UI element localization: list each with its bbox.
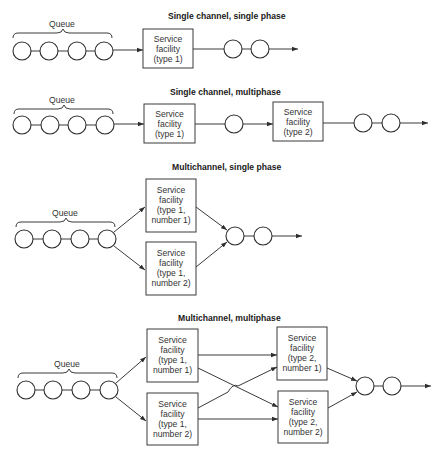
served-customer-circle xyxy=(383,377,401,395)
queueing-systems-diagram: Single channel, single phase Queue Servi… xyxy=(0,0,447,451)
arrow-to-channel-2 xyxy=(114,246,145,270)
svg-text:facility: facility xyxy=(161,409,186,419)
svg-text:(type 1,: (type 1, xyxy=(158,355,187,365)
customer-circle xyxy=(40,42,58,60)
svg-text:(type 1,: (type 1, xyxy=(157,205,186,215)
queue-brace xyxy=(14,105,113,114)
svg-text:Service: Service xyxy=(158,335,187,345)
diagram-multichannel-multiphase: Multichannel, multiphase Queue Service f… xyxy=(17,313,431,445)
svg-text:(type 1): (type 1) xyxy=(153,54,182,64)
svg-text:(type 1,: (type 1, xyxy=(157,268,186,278)
svg-text:(type 1,: (type 1, xyxy=(158,419,187,429)
customer-circle xyxy=(68,42,86,60)
diagram-multichannel-single-phase: Multichannel, single phase Queue Service… xyxy=(15,162,302,295)
customer-circle xyxy=(95,42,113,60)
service-facility-type1-number1-box: Service facility (type 1, number 1) xyxy=(147,329,198,382)
service-facility-type2-number1-box: Service facility (type 2, number 1) xyxy=(277,327,327,380)
queue-customers xyxy=(15,230,116,248)
svg-text:Service: Service xyxy=(157,248,186,258)
queue-label: Queue xyxy=(49,19,75,29)
svg-text:number 2): number 2) xyxy=(283,427,322,437)
svg-text:Service: Service xyxy=(158,399,187,409)
served-customer-circle xyxy=(382,114,400,132)
queue-brace xyxy=(16,218,115,227)
customer-circle xyxy=(98,230,116,248)
customer-circle xyxy=(41,116,59,134)
diagram-title: Multichannel, single phase xyxy=(172,162,282,172)
svg-text:number 2): number 2) xyxy=(153,429,192,439)
arrow-from-channel-2 xyxy=(196,242,227,267)
arrow-from-channel-1 xyxy=(196,207,227,230)
queue-customers xyxy=(13,42,113,60)
served-customer-circle xyxy=(251,40,269,58)
diagram-title: Single channel, multiphase xyxy=(170,87,281,97)
svg-text:number 1): number 1) xyxy=(151,215,190,225)
customer-circle xyxy=(96,116,114,134)
customer-circle xyxy=(17,381,35,399)
arrow-from-type2-number2 xyxy=(328,392,357,408)
diagram-single-channel-single-phase: Single channel, single phase Queue Servi… xyxy=(13,11,298,68)
svg-text:Service: Service xyxy=(157,185,186,195)
svg-text:(type 2,: (type 2, xyxy=(288,353,317,363)
served-customer-circle xyxy=(254,227,272,245)
customer-circle xyxy=(43,230,61,248)
svg-text:number 1): number 1) xyxy=(282,363,321,373)
queue-label: Queue xyxy=(54,359,80,369)
service-facility-number-2-box: Service facility (type 1, number 2) xyxy=(146,242,196,295)
customer-circle xyxy=(68,116,86,134)
arrow-to-type1-number2 xyxy=(116,397,146,421)
svg-text:Service: Service xyxy=(154,34,183,44)
diagram-title: Multichannel, multiphase xyxy=(178,313,281,323)
customer-circle xyxy=(71,230,89,248)
customer-circle xyxy=(100,381,118,399)
svg-text:Service: Service xyxy=(288,333,317,343)
waiting-customer-circle xyxy=(225,115,243,133)
queue-label: Queue xyxy=(49,95,75,105)
svg-text:Service: Service xyxy=(289,397,318,407)
served-customer-circle xyxy=(224,40,242,58)
arrow-to-type1-number1 xyxy=(116,357,146,383)
served-customer-circle xyxy=(354,114,372,132)
svg-text:(type 1): (type 1) xyxy=(155,129,184,139)
svg-text:facility: facility xyxy=(286,117,311,127)
queue-brace xyxy=(18,369,117,378)
arrow-from-type2-number1 xyxy=(327,368,357,381)
svg-text:facility: facility xyxy=(156,44,181,54)
served-customer-circle xyxy=(226,227,244,245)
diagram-single-channel-multiphase: Single channel, multiphase Queue Service… xyxy=(13,87,428,143)
svg-text:(type 2,: (type 2, xyxy=(289,417,318,427)
queue-label: Queue xyxy=(52,208,78,218)
diagram-title: Single channel, single phase xyxy=(168,11,286,21)
service-facility-box: Service facility (type 1) xyxy=(143,29,193,68)
customer-circle xyxy=(44,381,62,399)
svg-text:number 1): number 1) xyxy=(153,365,192,375)
service-facility-type-1-box: Service facility (type 1) xyxy=(144,104,195,143)
svg-text:Service: Service xyxy=(284,107,313,117)
service-facility-number-1-box: Service facility (type 1, number 1) xyxy=(146,179,196,232)
customer-circle xyxy=(13,116,31,134)
svg-text:facility: facility xyxy=(158,119,183,129)
svg-text:facility: facility xyxy=(290,343,315,353)
served-customer-circle xyxy=(356,377,374,395)
svg-text:Service: Service xyxy=(155,109,184,119)
customer-circle xyxy=(13,42,31,60)
svg-text:facility: facility xyxy=(291,407,316,417)
service-facility-type-2-box: Service facility (type 2) xyxy=(273,102,323,141)
svg-text:facility: facility xyxy=(159,258,184,268)
queue-brace xyxy=(13,29,112,38)
queue-customers xyxy=(17,381,118,399)
svg-text:number 2): number 2) xyxy=(151,278,190,288)
customer-circle xyxy=(15,230,33,248)
svg-text:facility: facility xyxy=(159,195,184,205)
service-facility-type2-number2-box: Service facility (type 2, number 2) xyxy=(278,391,328,443)
customer-circle xyxy=(72,381,90,399)
queue-customers xyxy=(13,116,114,134)
service-facility-type1-number2-box: Service facility (type 1, number 2) xyxy=(147,393,198,445)
svg-text:facility: facility xyxy=(161,345,186,355)
arrow-to-channel-1 xyxy=(114,207,145,232)
svg-text:(type 2): (type 2) xyxy=(283,127,312,137)
